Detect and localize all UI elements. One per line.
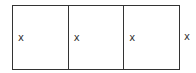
cell-3-label: x <box>129 33 135 43</box>
cell-3: x <box>124 6 179 69</box>
cell-1: x <box>13 6 69 69</box>
cell-2-label: x <box>74 33 80 43</box>
outside-label: x <box>184 32 190 42</box>
cell-1-label: x <box>18 33 24 43</box>
cell-row: x x x <box>12 5 180 70</box>
cell-2: x <box>69 6 125 69</box>
